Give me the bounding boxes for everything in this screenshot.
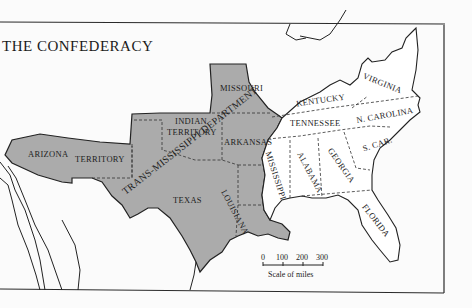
map-title: THE CONFEDERACY bbox=[2, 38, 153, 55]
label-arizona-territory: TERRITORY bbox=[75, 154, 125, 164]
label-arizona: ARIZONA bbox=[28, 149, 68, 159]
confederacy-map: THE CONFEDERACY MISSOURI INDIAN TERRITOR… bbox=[0, 0, 472, 308]
scale-tick-200: 200 bbox=[296, 253, 308, 262]
scale-caption: Scale of miles bbox=[268, 270, 313, 279]
label-texas: TEXAS bbox=[173, 195, 202, 205]
scale-tick-300: 300 bbox=[316, 253, 328, 262]
label-arkansas: ARKANSAS bbox=[224, 137, 272, 147]
scale-bar bbox=[263, 262, 323, 266]
scale-tick-100: 100 bbox=[276, 253, 288, 262]
top-rule bbox=[0, 22, 445, 24]
frame-bottom bbox=[0, 289, 444, 293]
scale-tick-0: 0 bbox=[261, 253, 265, 262]
label-tennessee: TENNESSEE bbox=[290, 118, 340, 128]
